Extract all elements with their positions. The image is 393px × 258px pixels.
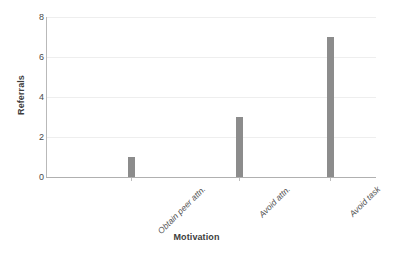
x-axis-line xyxy=(46,177,376,178)
bar-avoid-attn xyxy=(236,117,243,177)
y-tick-label: 8 xyxy=(28,13,44,22)
y-tick-label: 4 xyxy=(28,93,44,102)
gridline-8 xyxy=(47,17,376,18)
plot-area: Obtain peer attn. Avoid attn. Avoid task xyxy=(46,17,376,178)
x-tick-mark xyxy=(330,178,331,181)
y-tick-label: 2 xyxy=(28,133,44,142)
bar-obtain-peer-attn xyxy=(128,157,135,177)
x-axis-title: Motivation xyxy=(0,232,393,242)
x-tick-label-avoid-attn: Avoid attn. xyxy=(257,184,292,219)
bar-chart-figure: Referrals 8 6 4 2 0 Obtain peer attn. Av… xyxy=(0,0,393,258)
y-axis-title-text: Referrals xyxy=(16,62,26,128)
y-axis-line xyxy=(46,17,47,178)
x-tick-mark xyxy=(131,178,132,181)
y-tick-label: 6 xyxy=(28,53,44,62)
x-tick-mark xyxy=(239,178,240,181)
y-tick-label: 0 xyxy=(28,173,44,182)
x-tick-label-obtain-peer-attn: Obtain peer attn. xyxy=(156,184,208,236)
bar-avoid-task xyxy=(327,37,334,177)
x-tick-label-avoid-task: Avoid task xyxy=(347,184,382,219)
y-axis-tick-labels: 8 6 4 2 0 xyxy=(26,0,44,258)
